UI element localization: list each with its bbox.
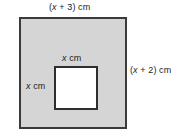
inner-square xyxy=(54,66,98,110)
outer-width-label: (x + 3) cm xyxy=(49,2,90,13)
geometry-figure: (x + 3) cm (x + 2) cm x cm x cm xyxy=(0,0,188,137)
inner-height-unit: cm xyxy=(31,81,46,91)
outer-height-unit: cm xyxy=(157,65,172,75)
outer-width-operator: + xyxy=(57,2,68,12)
inner-width-unit: cm xyxy=(67,53,82,63)
inner-height-label: x cm xyxy=(26,81,45,92)
inner-width-label: x cm xyxy=(62,53,81,64)
outer-height-operator: + xyxy=(138,65,149,75)
outer-height-label: (x + 2) cm xyxy=(130,65,171,76)
outer-width-unit: cm xyxy=(76,2,91,12)
